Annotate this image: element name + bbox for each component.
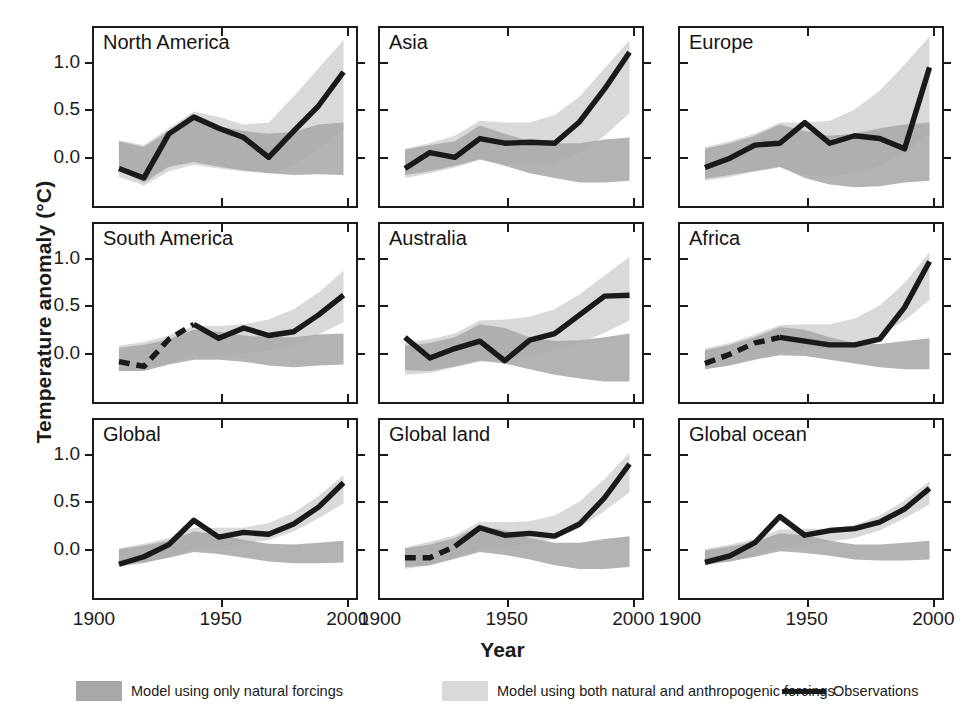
x-tick-mark [221,394,223,402]
y-tick-mark [85,109,94,111]
y-tick-mark [680,353,688,355]
x-tick-mark-top [347,224,349,232]
panel-global-ocean: Global ocean190019502000 [678,418,944,600]
y-tick-mark-right [942,109,951,111]
x-tick-mark [633,394,635,402]
y-tick-label: 1.0 [54,51,80,73]
legend-label: Observations [833,683,918,699]
y-tick-mark-right [942,157,951,159]
y-tick-mark-right [356,549,365,551]
plot-area [380,420,642,598]
x-tick-mark [633,598,635,607]
y-tick-mark-right [356,353,365,355]
y-tick-mark-right [356,157,365,159]
panel-europe: Europe [678,26,944,208]
x-tick-label: 1950 [786,608,828,630]
figure-root: Temperature anomaly (°C) Year North Amer… [0,0,961,726]
y-axis-title: Temperature anomaly (°C) [32,72,56,552]
legend: Model using only natural forcingsModel u… [0,676,961,706]
y-tick-mark [85,305,94,307]
legend-label: Model using only natural forcings [131,683,343,699]
y-tick-mark-right [642,258,651,260]
y-tick-mark-right [356,305,365,307]
y-tick-mark [380,549,388,551]
y-tick-label: 1.0 [54,443,80,465]
x-tick-mark [933,198,935,206]
y-tick-label: 0.0 [54,342,80,364]
y-tick-mark-right [942,305,951,307]
panel-title: Europe [689,31,754,54]
plot-area [94,28,356,206]
y-tick-mark [85,454,94,456]
y-tick-mark-right [356,501,365,503]
x-tick-mark [807,394,809,402]
legend-swatch [442,681,488,701]
panel-title: Asia [389,31,428,54]
y-tick-label: 0.5 [54,98,80,120]
y-tick-mark-right [642,157,651,159]
x-tick-mark-top [807,420,809,428]
y-tick-mark [680,109,688,111]
y-tick-mark [680,501,688,503]
y-tick-mark-right [642,353,651,355]
legend-item-1: Model using only natural forcings [76,681,343,701]
y-tick-mark-right [642,454,651,456]
x-tick-mark-top [507,28,509,36]
plot-area [680,28,942,206]
x-tick-mark [347,394,349,402]
x-tick-mark [507,198,509,206]
y-tick-mark-right [642,549,651,551]
panel-title: North America [103,31,230,54]
y-tick-mark-right [356,62,365,64]
x-tick-mark-top [807,224,809,232]
panel-australia: Australia [378,222,644,404]
y-tick-mark [680,454,688,456]
y-tick-mark-right [642,305,651,307]
y-tick-mark [85,258,94,260]
x-tick-mark [507,394,509,402]
x-tick-mark [633,198,635,206]
y-tick-mark-right [642,501,651,503]
y-tick-label: 0.5 [54,294,80,316]
y-tick-mark [680,62,688,64]
plot-area [94,224,356,402]
panel-title: Global land [389,423,490,446]
panel-asia: Asia [378,26,644,208]
y-tick-mark [85,353,94,355]
y-tick-mark [380,454,388,456]
y-tick-mark-right [642,62,651,64]
x-tick-mark [221,198,223,206]
y-tick-mark [85,549,94,551]
x-tick-label: 2000 [612,608,654,630]
y-tick-mark [380,62,388,64]
y-tick-mark-right [356,109,365,111]
panel-title: Australia [389,227,467,250]
x-tick-mark-top [933,224,935,232]
y-tick-mark [380,109,388,111]
x-tick-mark [507,598,509,607]
y-tick-mark-right [942,454,951,456]
x-tick-mark-top [347,28,349,36]
plot-area [94,420,356,598]
x-tick-mark [933,598,935,607]
plot-area [380,224,642,402]
y-tick-mark-right [356,454,365,456]
x-tick-mark [807,198,809,206]
y-tick-mark [85,157,94,159]
x-tick-mark-top [221,420,223,428]
y-tick-mark [380,501,388,503]
y-tick-mark-right [942,258,951,260]
legend-line-icon [782,689,826,694]
y-tick-mark-right [942,501,951,503]
legend-swatch [76,681,122,701]
y-tick-label: 0.5 [54,490,80,512]
x-tick-label: 1900 [659,608,701,630]
panel-global: Global1.00.50.0190019502000 [92,418,358,600]
plot-area [680,224,942,402]
x-tick-mark-top [507,224,509,232]
y-tick-mark [380,305,388,307]
x-axis-title: Year [0,638,961,662]
x-tick-mark-top [633,28,635,36]
y-tick-mark [680,157,688,159]
panel-africa: Africa [678,222,944,404]
